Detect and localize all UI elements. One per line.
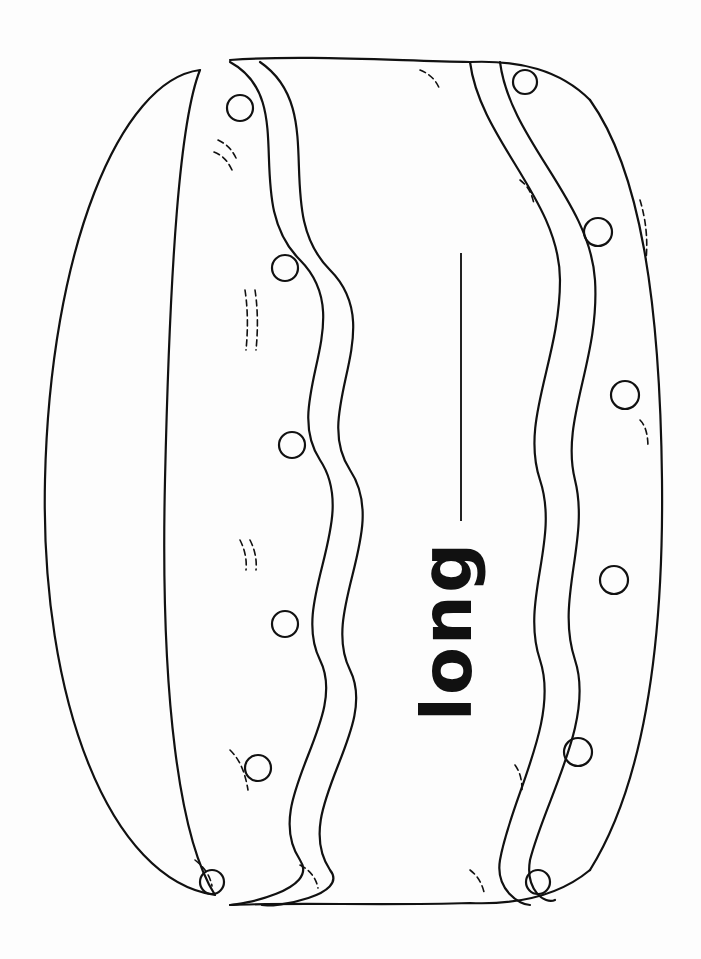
right-rope-inner xyxy=(500,62,595,901)
drum-head-outline xyxy=(45,70,215,895)
rope-knot xyxy=(600,566,628,594)
rope-knot xyxy=(513,70,537,94)
writing-line xyxy=(460,253,462,521)
rope-knot xyxy=(611,381,639,409)
left-rope-inner xyxy=(260,62,363,905)
right-rope-outer xyxy=(470,62,560,905)
word-label: long xyxy=(412,541,482,721)
rope-knot xyxy=(584,218,612,246)
drum-body-bottom-edge xyxy=(230,870,590,905)
rope-knot xyxy=(227,95,253,121)
drum-body-right-edge xyxy=(590,100,662,870)
rope-knot xyxy=(279,432,305,458)
rope-knot xyxy=(272,255,298,281)
coloring-page: long xyxy=(0,0,701,959)
word-label-container: long xyxy=(412,556,482,706)
rope-knot xyxy=(526,870,550,894)
rope-knot xyxy=(245,755,271,781)
rope-knot xyxy=(272,611,298,637)
drum-icon xyxy=(0,0,701,959)
